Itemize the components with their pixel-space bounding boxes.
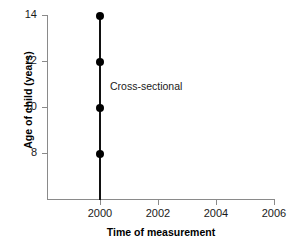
y-axis-title: Age of child (years) [22,20,34,180]
x-axis-line [47,199,275,200]
x-tick-label-2004: 2004 [194,208,238,219]
data-point-age-14[interactable] [96,12,104,20]
chart-figure: 14 12 10 8 2000 2002 2004 2006 Cross-sec… [0,0,297,250]
x-tick-2006 [274,200,275,205]
data-point-age-12[interactable] [96,58,104,66]
x-tick-label-2006: 2006 [252,208,296,219]
y-tick-label-14: 14 [11,9,37,20]
y-tick-8 [42,153,48,154]
x-tick-2002 [158,200,159,205]
y-tick-14 [42,15,48,16]
x-tick-label-2000: 2000 [78,208,122,219]
x-tick-2000 [100,200,101,205]
x-tick-2004 [216,200,217,205]
y-tick-12 [42,61,48,62]
x-axis-title: Time of measurement [47,226,275,238]
y-tick-10 [42,107,48,108]
data-point-age-10[interactable] [96,104,104,112]
series-annotation-cross-sectional: Cross-sectional [110,80,182,92]
x-tick-label-2002: 2002 [136,208,180,219]
data-point-age-8[interactable] [96,150,104,158]
